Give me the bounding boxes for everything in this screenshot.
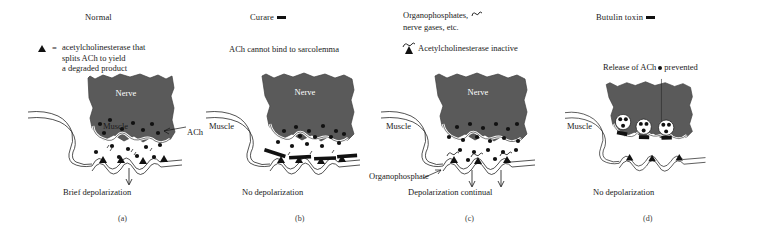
ach-dot — [514, 148, 518, 152]
caption-b: No depolarization — [242, 187, 303, 197]
nerve-label-a: Nerve — [116, 88, 137, 98]
panel-label-c: (c) — [465, 214, 474, 223]
muscle-outline-upper-a — [28, 112, 92, 167]
panel-b-curare: Curare ACh cannot bind to sarcolemma Ner… — [192, 0, 384, 245]
panel-label-a: (a) — [118, 214, 127, 223]
ach-dot — [150, 122, 154, 126]
ach-dot — [307, 129, 311, 133]
ach-dot — [458, 148, 462, 152]
ach-dot — [305, 142, 309, 146]
nerve-terminal-c — [435, 73, 527, 142]
ach-dot — [329, 135, 333, 139]
ache-triangle-a-4 — [160, 155, 168, 162]
ach-dot — [472, 150, 476, 154]
ach-dot — [515, 122, 519, 126]
ach-dot — [276, 140, 280, 144]
ach-dot — [290, 144, 294, 148]
ach-dot — [144, 145, 148, 149]
panel-c-organophosphates: Organophosphates, nerve gases, etc. Acet… — [377, 0, 569, 245]
organophosphate-squiggle — [447, 152, 459, 156]
muscle-outline-upper-c — [381, 112, 443, 167]
ach-dot — [321, 124, 325, 128]
degraded-product-mark — [150, 148, 152, 151]
ach-dot — [466, 158, 470, 162]
ache-triangle-d-3 — [676, 154, 683, 161]
ach-dot — [342, 132, 346, 136]
curare-bar — [314, 156, 336, 160]
sarcolemma-inner-c — [443, 163, 535, 175]
degraded-product-mark — [131, 149, 136, 155]
nerve-label-c: Nerve — [468, 87, 489, 97]
botulin-bar — [639, 135, 649, 139]
sarcolemma-inner-d — [619, 160, 705, 171]
ach-dot — [141, 128, 145, 132]
muscle-label-c: Muscle — [386, 121, 411, 131]
ach-dot — [131, 121, 135, 125]
ach-dot — [102, 131, 106, 135]
ach-dot — [152, 155, 156, 159]
nerve-label-b: Nerve — [295, 87, 316, 97]
ach-dot — [117, 155, 121, 159]
ach-dot — [158, 143, 162, 147]
muscle-label-b: Muscle — [209, 121, 234, 131]
botulin-bar — [661, 136, 671, 140]
synaptic-vesicle — [615, 114, 630, 129]
panel-label-d: (d) — [643, 214, 652, 223]
curare-bar — [264, 148, 286, 158]
muscle-outline-upper-d — [565, 112, 619, 164]
panel-a-normal: Normal = acetylcholinesterase that split… — [0, 0, 192, 245]
ach-dot — [294, 125, 298, 129]
ache-triangle-c-1 — [450, 156, 458, 163]
ach-dot — [481, 126, 485, 130]
panel-d-butulin-toxin: Butulin toxin Release of AChprevented — [565, 0, 757, 245]
ach-dot — [98, 122, 102, 126]
ache-triangle-c-3 — [503, 156, 511, 163]
sarcolemma-outer-a — [92, 158, 182, 170]
nerve-terminal-a — [88, 74, 175, 142]
ach-dot — [110, 144, 114, 148]
panel-a-drawing: Nerve — [0, 0, 192, 245]
ach-dot — [126, 147, 130, 151]
ach-dot — [493, 157, 497, 161]
panel-label-b: (b) — [295, 214, 304, 223]
ach-dot — [313, 135, 317, 139]
ache-triangle-a-3 — [139, 157, 147, 164]
degraded-product-mark — [288, 150, 334, 155]
ach-dot — [494, 122, 498, 126]
muscle-label-a: Muscle — [103, 121, 128, 131]
ach-dot — [455, 125, 459, 129]
ache-triangle-d-2 — [648, 155, 655, 162]
ach-dot — [337, 141, 341, 145]
ach-dot — [488, 139, 492, 143]
ach-dot — [468, 122, 472, 126]
muscle-outline-upper-b — [206, 112, 270, 167]
ach-dot — [282, 129, 286, 133]
ach-dot — [461, 138, 465, 142]
muscle-label-d: Muscle — [567, 121, 592, 131]
caption-c: Depolarization continual — [408, 187, 492, 197]
synaptic-vesicle — [658, 120, 673, 135]
neuromuscular-junction-figure: Normal = acetylcholinesterase that split… — [0, 0, 770, 245]
ach-dot — [475, 135, 479, 139]
synaptic-vesicle — [636, 119, 651, 134]
caption-d: No depolarization — [593, 187, 654, 197]
ache-triangle-a-1 — [99, 156, 107, 163]
ach-dot — [298, 134, 302, 138]
caption-a: Brief depolarization — [63, 187, 131, 197]
ach-dot — [447, 135, 451, 139]
ach-dot — [135, 154, 139, 158]
curare-bar — [337, 154, 357, 159]
ache-triangle-d-1 — [626, 154, 633, 161]
ach-dot — [501, 150, 505, 154]
ach-dot — [506, 127, 510, 131]
curare-bar — [289, 155, 311, 160]
organophosphate-label-c: Organophosphate — [369, 171, 429, 181]
ach-dot — [156, 131, 160, 135]
ach-dot — [516, 139, 520, 143]
ach-dot — [502, 136, 506, 140]
ach-dot — [334, 129, 338, 133]
ach-dot — [486, 148, 490, 152]
ach-dot — [94, 150, 98, 154]
ach-dot — [320, 144, 324, 148]
ache-triangle-c-2 — [474, 157, 482, 164]
